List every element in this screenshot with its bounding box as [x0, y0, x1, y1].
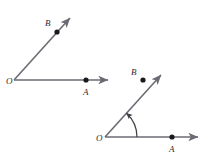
right-label-O: O	[96, 133, 103, 143]
right-point-B-dot	[140, 77, 145, 82]
left-label-A: A	[82, 87, 89, 97]
left-label-B: B	[45, 18, 51, 28]
left-ray-OB-line	[14, 18, 70, 80]
left-label-O: O	[6, 76, 13, 86]
right-label-B: B	[131, 67, 137, 77]
right-label-A: A	[168, 144, 175, 154]
angles-svg: O A B O A B	[0, 0, 204, 156]
right-ray-OB-line	[105, 75, 161, 137]
left-point-A-dot	[83, 77, 88, 82]
diagram-left-angle: O A B	[6, 18, 108, 97]
diagram-right-angle: O A B	[96, 67, 198, 154]
left-point-B-dot	[54, 29, 59, 34]
geometry-figure-canvas: O A B O A B	[0, 0, 204, 156]
right-rotation-arc	[126, 113, 137, 137]
right-point-A-dot	[169, 134, 174, 139]
